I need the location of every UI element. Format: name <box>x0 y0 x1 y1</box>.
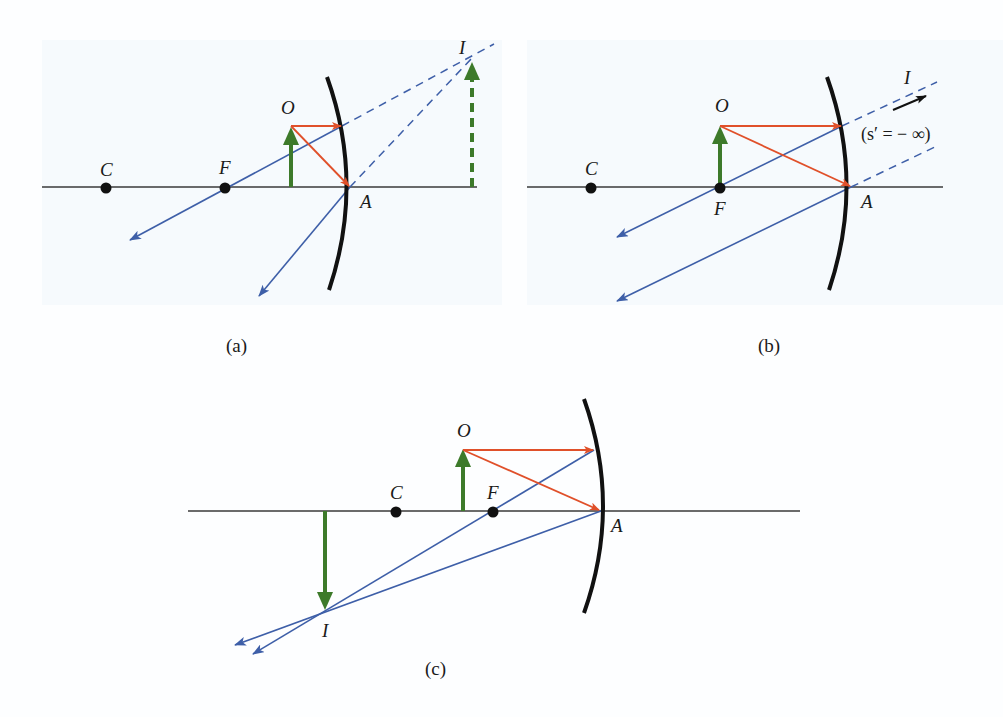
concave-mirror <box>327 77 347 290</box>
reflected-ray <box>235 511 601 645</box>
infinity-annotation: (s′ = − ∞) <box>861 124 931 145</box>
center-point <box>586 183 597 194</box>
virtual-ray-extension <box>842 82 937 126</box>
reflected-ray <box>259 187 350 296</box>
label-i: I <box>458 37 467 58</box>
label-o: O <box>281 97 295 118</box>
label-o: O <box>715 95 729 116</box>
caption-b: (b) <box>758 335 780 357</box>
virtual-ray-extension <box>350 58 472 187</box>
panel-a: C F O A I (a) <box>42 37 494 357</box>
infinity-direction-arrow <box>893 96 926 110</box>
label-f: F <box>713 198 726 219</box>
virtual-ray-extension <box>342 44 494 126</box>
label-i: I <box>903 67 912 88</box>
center-point <box>101 183 112 194</box>
label-f: F <box>218 157 231 178</box>
label-a: A <box>358 191 372 212</box>
focal-point <box>488 507 499 518</box>
label-c: C <box>585 158 598 179</box>
label-c: C <box>390 482 403 503</box>
diagram-svg: C F O A I (a) <box>0 0 1003 717</box>
focal-point <box>220 183 231 194</box>
ray-diagram-figure: C F O A I (a) <box>0 0 1003 717</box>
caption-a: (a) <box>226 335 247 357</box>
center-point <box>391 507 402 518</box>
label-a: A <box>609 515 623 536</box>
focal-point <box>715 183 726 194</box>
label-a: A <box>859 191 873 212</box>
label-i: I <box>321 620 330 641</box>
virtual-ray-extension <box>851 146 937 187</box>
reflected-ray <box>617 187 851 301</box>
object-arrowhead <box>283 127 299 145</box>
reflected-ray <box>253 450 594 654</box>
caption-c: (c) <box>425 658 446 680</box>
label-c: C <box>100 159 113 180</box>
panel-c: C F O A I (c) <box>188 399 800 680</box>
label-o: O <box>457 420 471 441</box>
reflected-ray <box>617 126 842 237</box>
label-f: F <box>486 482 499 503</box>
reflected-ray <box>130 126 342 240</box>
concave-mirror <box>584 399 603 613</box>
panel-b: C F O A I (s′ = − ∞) (b) <box>527 67 943 357</box>
